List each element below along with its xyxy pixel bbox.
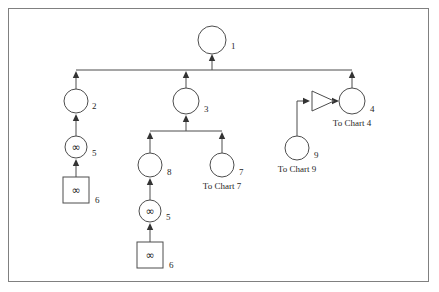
node-7-shape[interactable] <box>210 153 234 177</box>
node-5-mid-glyph: ∞ <box>145 205 154 218</box>
node-9[interactable]: 9To Chart 9 <box>278 136 319 174</box>
node-8[interactable]: 8 <box>138 153 172 177</box>
node-7-caption: To Chart 7 <box>203 181 242 191</box>
edge-3-to-bus <box>183 71 189 88</box>
node-3-index-label: 3 <box>204 104 209 114</box>
node-6-left-index-label: 6 <box>95 195 100 205</box>
node-6-mid-glyph: ∞ <box>145 249 154 262</box>
edge-2-to-bus <box>73 71 79 89</box>
diagram-canvas: 12∞5∞638∞5∞67To Chart 74To Chart 49To Ch… <box>0 0 439 292</box>
node-1[interactable]: 1 <box>198 26 236 54</box>
node-4[interactable]: 4To Chart 4 <box>333 88 375 128</box>
edge-9-to-gate-arrowhead <box>303 98 310 104</box>
edge-5mid-to-8-arrowhead <box>147 178 153 185</box>
edge-4-to-bus <box>349 71 355 88</box>
node-6-left[interactable]: ∞6 <box>63 177 100 205</box>
node-8-index-label: 8 <box>167 167 172 177</box>
gate-triangle[interactable] <box>312 91 334 111</box>
edge-9-to-gate-line <box>297 101 307 136</box>
node-5-mid[interactable]: ∞5 <box>139 200 171 222</box>
edge-6mid-to-5mid-arrowhead <box>147 223 153 230</box>
node-5-left[interactable]: ∞5 <box>65 136 97 158</box>
edge-6left-to-5left <box>73 159 79 177</box>
gates-layer <box>312 91 334 111</box>
edge-subbus-to-3 <box>183 115 189 131</box>
node-1-index-label: 1 <box>231 41 236 51</box>
node-6-left-glyph: ∞ <box>71 184 80 197</box>
edge-7-to-subbus-arrowhead <box>219 132 225 139</box>
node-5-left-glyph: ∞ <box>71 141 80 154</box>
edges-layer <box>73 54 355 242</box>
diagram-svg: 12∞5∞638∞5∞67To Chart 74To Chart 49To Ch… <box>0 0 439 292</box>
node-4-index-label: 4 <box>370 104 375 114</box>
edge-subbus-to-3-arrowhead <box>183 115 189 122</box>
node-8-shape[interactable] <box>138 153 162 177</box>
edge-6mid-to-5mid <box>147 223 153 242</box>
node-9-caption: To Chart 9 <box>278 164 317 174</box>
node-5-left-index-label: 5 <box>92 148 97 158</box>
edge-8-to-subbus-arrowhead <box>147 132 153 139</box>
node-9-index-label: 9 <box>314 150 319 160</box>
node-1-shape[interactable] <box>198 26 226 54</box>
node-9-shape[interactable] <box>285 136 309 160</box>
node-4-shape[interactable] <box>339 88 365 114</box>
node-6-mid[interactable]: ∞6 <box>137 242 174 270</box>
edge-5left-to-2-arrowhead <box>73 114 79 121</box>
node-4-caption: To Chart 4 <box>333 118 372 128</box>
edge-4-to-bus-arrowhead <box>349 71 355 78</box>
nodes-layer: 12∞5∞638∞5∞67To Chart 74To Chart 49To Ch… <box>63 26 375 270</box>
node-2-index-label: 2 <box>92 101 97 111</box>
gate-triangle-shape[interactable] <box>312 91 334 111</box>
node-5-mid-index-label: 5 <box>166 212 171 222</box>
edge-6left-to-5left-arrowhead <box>73 159 79 166</box>
edge-7-to-subbus <box>219 132 225 153</box>
edge-2-to-bus-arrowhead <box>73 71 79 78</box>
node-2-shape[interactable] <box>64 89 88 113</box>
edge-5mid-to-8 <box>147 178 153 200</box>
node-6-mid-index-label: 6 <box>169 260 174 270</box>
node-3-shape[interactable] <box>173 88 199 114</box>
edge-5left-to-2 <box>73 114 79 136</box>
node-2[interactable]: 2 <box>64 89 97 113</box>
edge-bus-to-1-arrowhead <box>209 54 215 61</box>
node-7[interactable]: 7To Chart 7 <box>203 153 244 191</box>
node-7-index-label: 7 <box>239 167 244 177</box>
edge-8-to-subbus <box>147 132 153 153</box>
edge-3-to-bus-arrowhead <box>183 71 189 78</box>
edge-bus-to-1 <box>209 54 215 70</box>
edge-9-to-gate <box>297 98 310 136</box>
node-3[interactable]: 3 <box>173 88 209 114</box>
